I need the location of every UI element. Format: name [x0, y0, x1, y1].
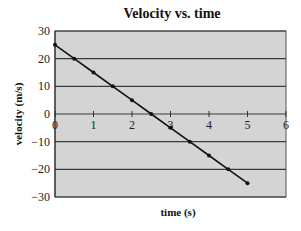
x-axis-label: time (s) — [160, 206, 195, 219]
data-point — [72, 57, 76, 61]
data-point — [188, 140, 192, 144]
data-point — [246, 181, 250, 185]
data-point — [92, 71, 96, 75]
data-point — [207, 154, 211, 158]
x-tick-label: 6 — [283, 118, 289, 132]
data-point — [149, 112, 153, 116]
y-axis-label: velocity (m/s) — [12, 82, 25, 145]
x-tick-label: 0 — [52, 118, 58, 132]
y-tick-label: 0 — [44, 107, 50, 121]
y-tick-label: −30 — [31, 190, 50, 204]
x-tick-label: 2 — [129, 118, 135, 132]
data-point — [226, 167, 230, 171]
y-tick-label: 30 — [38, 24, 50, 38]
x-tick-label: 1 — [91, 118, 97, 132]
y-axis-ticks: 3020100−10−20−30 — [31, 24, 50, 204]
velocity-time-chart: Velocity vs. time 3020100−10−20−30 01234… — [0, 0, 301, 231]
data-point — [130, 98, 134, 102]
x-tick-label: 4 — [206, 118, 212, 132]
x-tick-label: 5 — [245, 118, 251, 132]
y-tick-label: −10 — [31, 135, 50, 149]
data-point — [169, 126, 173, 130]
y-tick-label: 20 — [38, 52, 50, 66]
y-tick-label: −20 — [31, 162, 50, 176]
y-tick-label: 10 — [38, 79, 50, 93]
data-point — [111, 84, 115, 88]
data-point — [53, 43, 57, 47]
chart-title: Velocity vs. time — [123, 6, 220, 21]
